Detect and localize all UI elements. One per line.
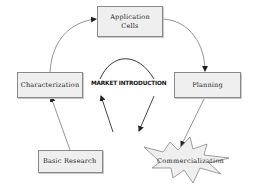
node-basic-research-label: Basic Research [43,157,96,166]
arrow-up-to-market-introduction [101,96,113,132]
node-commercialization-label: Commercialization [157,157,224,165]
arrow-application-to-planning [162,19,205,71]
node-application-cells-line2: Cells [110,22,150,31]
market-introduction-cycle-diagram: Application Cells Characterization Plann… [0,0,253,192]
node-application-cells: Application Cells [97,6,163,37]
node-planning: Planning [174,72,241,98]
node-basic-research: Basic Research [38,150,103,173]
node-application-cells-line1: Application [110,13,150,22]
node-characterization-label: Characterization [21,81,80,90]
node-planning-label: Planning [192,81,223,90]
market-introduction-arc [100,59,154,79]
arrow-down-from-market-introduction [139,96,154,131]
arrow-planning-to-commercialization [181,97,205,146]
arrow-basic-research-to-characterization [51,97,70,150]
market-introduction-label: MARKET INTRODUCTION [91,80,166,86]
node-characterization: Characterization [17,72,83,98]
arrow-characterization-to-application [50,19,96,72]
